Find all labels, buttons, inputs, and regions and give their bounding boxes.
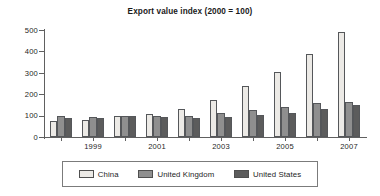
legend-item-china[interactable]: China — [79, 170, 119, 179]
y-axis-tick-label: 100 — [2, 111, 38, 120]
x-axis-tick — [317, 138, 318, 141]
x-axis-tick — [189, 138, 190, 141]
y-axis-tick-label: 200 — [2, 90, 38, 99]
bar — [338, 32, 345, 137]
bar — [185, 116, 192, 137]
x-axis-tick — [349, 138, 350, 141]
bar — [225, 117, 232, 137]
y-axis-tick-label: 300 — [2, 69, 38, 78]
legend-item-united-kingdom[interactable]: United Kingdom — [138, 170, 214, 179]
y-axis-tick — [39, 137, 44, 138]
plot-area — [45, 30, 365, 137]
bar — [121, 116, 128, 137]
legend-swatch-united-states-icon — [234, 170, 249, 178]
y-axis-tick-label: 400 — [2, 47, 38, 56]
bar — [161, 117, 168, 137]
legend-item-united-states[interactable]: United States — [234, 170, 301, 179]
bar — [153, 116, 160, 137]
x-axis-tick — [285, 138, 286, 141]
x-axis-tick-label: 2003 — [212, 142, 230, 151]
x-axis-tick — [157, 138, 158, 141]
x-axis-tick — [61, 138, 62, 141]
legend-label-united-kingdom: United Kingdom — [157, 170, 214, 179]
x-axis-tick — [125, 138, 126, 141]
y-axis-tick-labels: 0100200300400500 — [0, 0, 38, 196]
legend-label-united-states: United States — [253, 170, 301, 179]
legend-swatch-united-kingdom-icon — [138, 170, 153, 178]
bar — [242, 86, 249, 137]
bar — [65, 118, 72, 137]
bar — [210, 100, 217, 137]
bar — [345, 102, 352, 137]
x-axis-tick-label: 1999 — [84, 142, 102, 151]
bar — [129, 116, 136, 137]
y-axis-tick — [39, 73, 44, 74]
chart-legend: China United Kingdom United States — [62, 161, 318, 187]
bar — [249, 110, 256, 137]
x-axis-tick-label: 2001 — [148, 142, 166, 151]
y-axis-tick — [39, 116, 44, 117]
bar — [321, 109, 328, 137]
bar — [89, 117, 96, 137]
bar — [306, 54, 313, 137]
legend-label-china: China — [98, 170, 119, 179]
bar — [281, 107, 288, 137]
bar — [257, 115, 264, 137]
y-axis-tick — [39, 94, 44, 95]
y-axis-tick — [39, 30, 44, 31]
bar — [289, 113, 296, 137]
bar — [313, 103, 320, 137]
bar — [114, 116, 121, 137]
bar — [178, 109, 185, 137]
chart-figure: Export value index (2000 = 100) 01002003… — [0, 0, 380, 196]
bar — [57, 116, 64, 137]
bar — [217, 113, 224, 137]
bar — [193, 118, 200, 137]
y-axis-tick — [39, 51, 44, 52]
bar — [274, 72, 281, 137]
x-axis-tick — [253, 138, 254, 141]
x-axis-tick — [221, 138, 222, 141]
x-axis-tick-label: 2007 — [340, 142, 358, 151]
y-axis-tick-label: 500 — [2, 26, 38, 35]
x-axis-tick-label: 2005 — [276, 142, 294, 151]
x-axis-tick — [93, 138, 94, 141]
chart-title: Export value index (2000 = 100) — [0, 7, 380, 16]
bar — [97, 118, 104, 137]
bar — [353, 105, 360, 137]
bar — [50, 121, 57, 137]
y-axis-tick-label: 0 — [2, 133, 38, 142]
bar — [146, 114, 153, 137]
bar — [82, 120, 89, 137]
legend-swatch-china-icon — [79, 170, 94, 178]
